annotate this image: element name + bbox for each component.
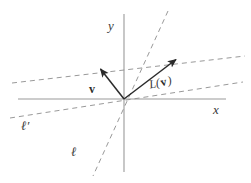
figure-canvas: y x ℓ′ ℓ v L( v ) xyxy=(0,0,251,183)
axes-group xyxy=(18,14,226,172)
vector-Lv-label: L( v ) xyxy=(147,73,173,91)
labels-group: y x ℓ′ ℓ v L( v ) xyxy=(21,18,219,159)
line-ell-label: ℓ xyxy=(71,144,77,159)
reflection-diagram: y x ℓ′ ℓ v L( v ) xyxy=(0,0,251,183)
upper-dashed-line xyxy=(12,56,245,83)
dashed-lines-group xyxy=(10,11,245,176)
vector-v-label: v xyxy=(89,82,95,96)
line-ell-prime xyxy=(10,82,243,118)
line-ell-prime-label: ℓ′ xyxy=(21,118,29,133)
x-axis-label: x xyxy=(212,102,219,117)
y-axis-label: y xyxy=(106,18,114,33)
vector-v-shaft xyxy=(101,69,125,99)
